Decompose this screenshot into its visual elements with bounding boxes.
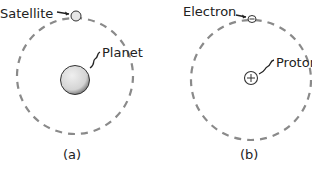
planet-pointer-icon bbox=[90, 52, 100, 68]
panel-caption-a: (a) bbox=[63, 148, 81, 161]
satellite-icon bbox=[71, 11, 81, 21]
electron-label: Electron bbox=[183, 5, 236, 18]
planet-icon bbox=[61, 66, 90, 95]
panel-caption-b: (b) bbox=[240, 148, 258, 161]
panel-electron-proton: Electron Proton (b) bbox=[156, 0, 312, 170]
satellite-label: Satellite bbox=[0, 7, 53, 20]
planet-label: Planet bbox=[102, 46, 143, 59]
proton-pointer-icon bbox=[259, 60, 274, 74]
panel-satellite-planet: Satellite Planet (a) bbox=[0, 0, 156, 170]
proton-label: Proton bbox=[276, 56, 312, 69]
orbit-diagram-a bbox=[0, 0, 156, 170]
orbit-diagram-b bbox=[156, 0, 312, 170]
